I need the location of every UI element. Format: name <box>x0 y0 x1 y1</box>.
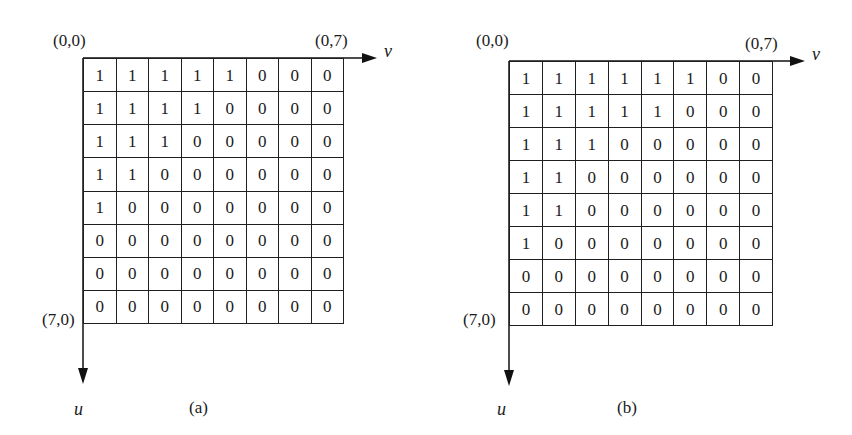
matrix-cell: 0 <box>542 260 575 293</box>
matrix-cell: 0 <box>542 293 575 326</box>
matrix-cell: 1 <box>608 95 641 128</box>
matrix-row: 11000000 <box>510 161 773 194</box>
matrix-row: 00000000 <box>510 260 773 293</box>
matrix-cell: 0 <box>707 227 740 260</box>
matrix-row: 11111100 <box>510 62 773 95</box>
matrix-cell: 0 <box>707 62 740 95</box>
matrix-cell: 1 <box>542 161 575 194</box>
v-axis-arrow-icon <box>790 56 805 66</box>
matrix-cell: 0 <box>740 161 773 194</box>
matrix-cell: 1 <box>575 128 608 161</box>
matrix-cell: 0 <box>608 194 641 227</box>
matrix-cell: 0 <box>575 293 608 326</box>
matrix-cell: 0 <box>641 260 674 293</box>
matrix-cell: 0 <box>707 260 740 293</box>
matrix-cell: 0 <box>707 194 740 227</box>
matrix-cell: 1 <box>510 227 543 260</box>
matrix-cell: 1 <box>510 128 543 161</box>
matrix-cell: 0 <box>674 227 707 260</box>
matrix-cell: 0 <box>575 227 608 260</box>
matrix-cell: 0 <box>510 293 543 326</box>
caption-b: (b) <box>617 399 637 416</box>
matrix-cell: 0 <box>674 128 707 161</box>
matrix-cell: 0 <box>740 128 773 161</box>
matrix-cell: 0 <box>608 161 641 194</box>
matrix-row: 00000000 <box>510 293 773 326</box>
matrix-cell: 0 <box>740 293 773 326</box>
matrix-cell: 0 <box>674 161 707 194</box>
matrix-cell: 1 <box>510 161 543 194</box>
matrix-cell: 0 <box>608 293 641 326</box>
matrix-cell: 0 <box>740 227 773 260</box>
matrix-cell: 0 <box>608 260 641 293</box>
u-axis-label: u <box>497 400 506 418</box>
matrix-b: 11111100 11111000 11100000 11000000 1100… <box>509 61 773 326</box>
v-axis-label: v <box>812 45 820 63</box>
matrix-row: 10000000 <box>510 227 773 260</box>
matrix-cell: 1 <box>510 95 543 128</box>
matrix-cell: 1 <box>641 95 674 128</box>
matrix-cell: 0 <box>510 260 543 293</box>
matrix-cell: 0 <box>674 260 707 293</box>
matrix-cell: 1 <box>542 128 575 161</box>
matrix-cell: 0 <box>608 128 641 161</box>
matrix-cell: 0 <box>641 227 674 260</box>
matrix-cell: 0 <box>575 161 608 194</box>
matrix-cell: 0 <box>575 194 608 227</box>
matrix-cell: 0 <box>674 293 707 326</box>
matrix-cell: 0 <box>740 194 773 227</box>
matrix-cell: 0 <box>707 128 740 161</box>
matrix-cell: 0 <box>641 128 674 161</box>
u-axis-arrow-icon <box>504 370 514 386</box>
matrix-cell: 0 <box>740 95 773 128</box>
matrix-row: 11000000 <box>510 194 773 227</box>
matrix-cell: 1 <box>641 62 674 95</box>
matrix-cell: 0 <box>740 260 773 293</box>
matrix-row: 11100000 <box>510 128 773 161</box>
origin-label: (0,0) <box>476 32 509 49</box>
matrix-row: 11111000 <box>510 95 773 128</box>
matrix-cell: 1 <box>674 62 707 95</box>
matrix-cell: 0 <box>674 194 707 227</box>
matrix-cell: 0 <box>641 194 674 227</box>
matrix-cell: 1 <box>608 62 641 95</box>
matrix-cell: 0 <box>674 95 707 128</box>
matrix-cell: 1 <box>510 194 543 227</box>
matrix-cell: 0 <box>641 293 674 326</box>
top-right-label: (0,7) <box>745 35 778 52</box>
bottom-left-label: (7,0) <box>463 311 496 328</box>
matrix-cell: 0 <box>707 293 740 326</box>
matrix-cell: 0 <box>542 227 575 260</box>
panel-b: (0,0) (0,7) v (7,0) u (b) 11111100 11111… <box>0 0 852 435</box>
matrix-cell: 1 <box>542 95 575 128</box>
matrix-cell: 0 <box>641 161 674 194</box>
matrix-cell: 1 <box>542 62 575 95</box>
matrix-cell: 1 <box>575 62 608 95</box>
matrix-cell: 0 <box>707 95 740 128</box>
matrix-cell: 0 <box>575 260 608 293</box>
matrix-cell: 1 <box>542 194 575 227</box>
matrix-cell: 1 <box>575 95 608 128</box>
matrix-cell: 0 <box>608 227 641 260</box>
matrix-cell: 0 <box>740 62 773 95</box>
matrix-cell: 1 <box>510 62 543 95</box>
matrix-cell: 0 <box>707 161 740 194</box>
